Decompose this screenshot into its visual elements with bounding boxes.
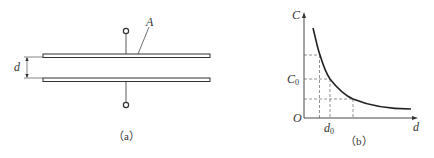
- top-terminal-icon: [123, 28, 128, 33]
- bottom-plate: [43, 78, 210, 82]
- gap-arrow-bottom-icon: [25, 74, 28, 78]
- d0-subscript: 0: [330, 127, 334, 136]
- capacitance-curve: [313, 28, 411, 109]
- gap-label: d: [14, 61, 20, 73]
- gap-arrow-top-icon: [25, 57, 28, 61]
- y-axis-label: C: [292, 9, 300, 21]
- origin-label: O: [293, 112, 302, 124]
- c0-text: C: [287, 72, 295, 86]
- d0-label: d0: [324, 122, 334, 136]
- bottom-terminal-icon: [123, 102, 128, 107]
- capacitor-figure-a: [24, 27, 210, 108]
- y-axis-arrow-icon: [302, 12, 306, 18]
- graph-figure-b: [302, 12, 418, 120]
- area-leader-line: [138, 27, 149, 54]
- x-axis-label: d: [413, 121, 419, 133]
- top-plate: [43, 54, 210, 58]
- c0-subscript: 0: [295, 78, 299, 87]
- c0-label: C0: [287, 73, 299, 87]
- caption-b: （b）: [345, 136, 373, 147]
- area-label: A: [146, 16, 153, 28]
- caption-a: （a）: [113, 131, 140, 142]
- dashed-guides: [304, 55, 353, 118]
